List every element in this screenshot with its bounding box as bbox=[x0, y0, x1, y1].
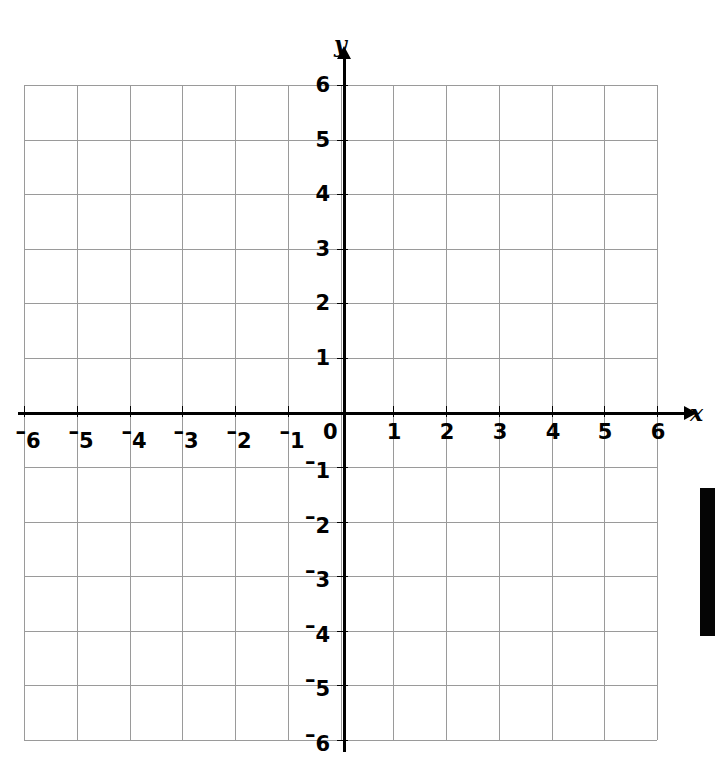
y-tick-label: 3 bbox=[315, 239, 330, 260]
y-axis-tick bbox=[337, 740, 348, 741]
x-tick-label: –6 bbox=[15, 422, 40, 452]
negative-sign: – bbox=[305, 507, 316, 528]
y-axis-tick bbox=[337, 685, 348, 686]
coordinate-plane-graph: –6–5–4–3–2–1123456654321–1–2–3–4–5–6 0 x… bbox=[0, 0, 715, 772]
x-axis-line bbox=[18, 412, 685, 415]
x-tick-label: 5 bbox=[598, 422, 613, 443]
x-axis-tick bbox=[552, 406, 553, 417]
negative-sign: – bbox=[173, 422, 184, 443]
y-axis-tick bbox=[337, 140, 348, 141]
y-tick-label: –5 bbox=[305, 670, 330, 700]
x-axis-tick bbox=[657, 406, 658, 417]
y-tick-label: 4 bbox=[315, 184, 330, 205]
x-tick-label: 6 bbox=[651, 422, 666, 443]
x-axis-tick bbox=[235, 406, 236, 417]
negative-sign: – bbox=[305, 561, 316, 582]
y-axis-label: y bbox=[334, 33, 347, 55]
y-tick-label: 2 bbox=[315, 293, 330, 314]
negative-sign: – bbox=[305, 670, 316, 691]
x-tick-label: –4 bbox=[121, 422, 146, 452]
y-axis-tick bbox=[337, 631, 348, 632]
y-tick-label: –1 bbox=[305, 452, 330, 482]
x-axis-label: x bbox=[690, 402, 703, 424]
x-axis-tick bbox=[24, 406, 25, 417]
y-tick-label: –3 bbox=[305, 561, 330, 591]
x-axis-tick bbox=[393, 406, 394, 417]
x-axis-tick bbox=[182, 406, 183, 417]
y-tick-label: 5 bbox=[315, 130, 330, 151]
negative-sign: – bbox=[305, 452, 316, 473]
y-tick-label: –6 bbox=[305, 725, 330, 755]
x-axis-tick bbox=[77, 406, 78, 417]
y-tick-label: 1 bbox=[315, 348, 330, 369]
y-axis-line bbox=[343, 58, 346, 752]
x-axis-tick bbox=[288, 406, 289, 417]
x-tick-label: –2 bbox=[226, 422, 251, 452]
x-axis-tick bbox=[446, 406, 447, 417]
negative-sign: – bbox=[279, 422, 290, 443]
x-tick-label: 4 bbox=[546, 422, 561, 443]
y-axis-tick bbox=[337, 522, 348, 523]
x-tick-label: –5 bbox=[68, 422, 93, 452]
x-axis-tick bbox=[499, 406, 500, 417]
negative-sign: – bbox=[305, 616, 316, 637]
y-axis-tick bbox=[337, 467, 348, 468]
y-tick-label: –2 bbox=[305, 507, 330, 537]
y-axis-tick bbox=[337, 194, 348, 195]
x-tick-label: 1 bbox=[387, 422, 402, 443]
y-axis-tick bbox=[337, 85, 348, 86]
negative-sign: – bbox=[226, 422, 237, 443]
y-axis-tick bbox=[337, 576, 348, 577]
x-tick-label: 3 bbox=[493, 422, 508, 443]
x-tick-label: 2 bbox=[440, 422, 455, 443]
y-tick-label: 6 bbox=[315, 75, 330, 96]
x-axis-tick bbox=[604, 406, 605, 417]
negative-sign: – bbox=[121, 422, 132, 443]
y-axis-tick bbox=[337, 249, 348, 250]
negative-sign: – bbox=[305, 725, 316, 746]
right-edge-bar bbox=[700, 488, 715, 636]
y-axis-tick bbox=[337, 358, 348, 359]
x-axis-tick bbox=[130, 406, 131, 417]
negative-sign: – bbox=[15, 422, 26, 443]
x-tick-label: –3 bbox=[173, 422, 198, 452]
y-axis-tick bbox=[337, 303, 348, 304]
negative-sign: – bbox=[68, 422, 79, 443]
x-tick-label: –1 bbox=[279, 422, 304, 452]
y-tick-label: –4 bbox=[305, 616, 330, 646]
origin-label: 0 bbox=[323, 422, 338, 443]
